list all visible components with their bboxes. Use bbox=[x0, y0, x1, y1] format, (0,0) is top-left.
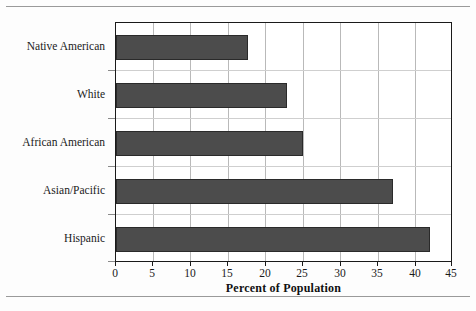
x-axis-label-7: 35 bbox=[362, 267, 392, 280]
x-axis-label-6: 30 bbox=[325, 267, 355, 280]
x-axis-tick-8 bbox=[415, 262, 416, 266]
plot-area bbox=[115, 22, 452, 262]
y-axis-label-2: African American bbox=[0, 136, 105, 148]
bar-row-native-american bbox=[116, 23, 248, 71]
y-axis-label-3: Asian/Pacific bbox=[0, 184, 105, 196]
x-axis-label-4: 20 bbox=[250, 267, 280, 280]
x-axis-label-8: 40 bbox=[400, 267, 430, 280]
y-axis-tick-5 bbox=[108, 261, 115, 262]
y-axis-tick-3 bbox=[108, 166, 115, 167]
y-axis-category-labels: Native American White African American A… bbox=[0, 22, 110, 262]
x-axis-label-3: 15 bbox=[212, 267, 242, 280]
bar-3 bbox=[116, 179, 393, 204]
document-page: Native American White African American A… bbox=[0, 0, 476, 311]
bar-2 bbox=[116, 131, 303, 156]
x-axis-tick-7 bbox=[377, 262, 378, 266]
x-axis-tick-3 bbox=[227, 262, 228, 266]
bar-row-white bbox=[116, 71, 287, 119]
x-axis-tick-6 bbox=[340, 262, 341, 266]
x-axis-label-0: 0 bbox=[100, 267, 130, 280]
bar-1 bbox=[116, 83, 287, 108]
y-axis-tick-1 bbox=[108, 70, 115, 71]
bar-row-african-american bbox=[116, 119, 303, 167]
x-axis-tick-9 bbox=[451, 262, 452, 266]
bar-row-hispanic bbox=[116, 215, 430, 263]
x-axis-ticks: 0 5 10 15 20 25 30 35 40 45 bbox=[115, 262, 452, 282]
x-axis-label-2: 10 bbox=[175, 267, 205, 280]
y-axis-label-0: Native American bbox=[0, 40, 105, 52]
x-axis-label-9: 45 bbox=[436, 267, 466, 280]
bar-0 bbox=[116, 35, 248, 60]
bar-row-asian-pacific bbox=[116, 167, 393, 215]
bar-series bbox=[116, 23, 451, 261]
bar-chart: Native American White African American A… bbox=[0, 0, 476, 311]
y-axis-tick-4 bbox=[108, 214, 115, 215]
bar-4 bbox=[116, 227, 430, 252]
x-axis-tick-0 bbox=[115, 262, 116, 266]
y-axis-label-4: Hispanic bbox=[0, 232, 105, 244]
y-axis-label-1: White bbox=[0, 88, 105, 100]
x-axis-tick-2 bbox=[190, 262, 191, 266]
x-axis-label-1: 5 bbox=[137, 267, 167, 280]
x-axis-tick-4 bbox=[265, 262, 266, 266]
x-axis-title: Percent of Population bbox=[115, 281, 452, 296]
x-axis-tick-1 bbox=[152, 262, 153, 266]
x-axis-label-5: 25 bbox=[287, 267, 317, 280]
x-axis-tick-5 bbox=[302, 262, 303, 266]
y-axis-tick-2 bbox=[108, 118, 115, 119]
